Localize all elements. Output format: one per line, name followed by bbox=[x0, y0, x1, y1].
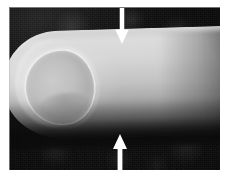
arrow-up-icon bbox=[111, 134, 129, 170]
figure-page bbox=[0, 0, 234, 182]
arrow-down-icon bbox=[113, 8, 131, 44]
clinical-photograph bbox=[9, 7, 220, 170]
